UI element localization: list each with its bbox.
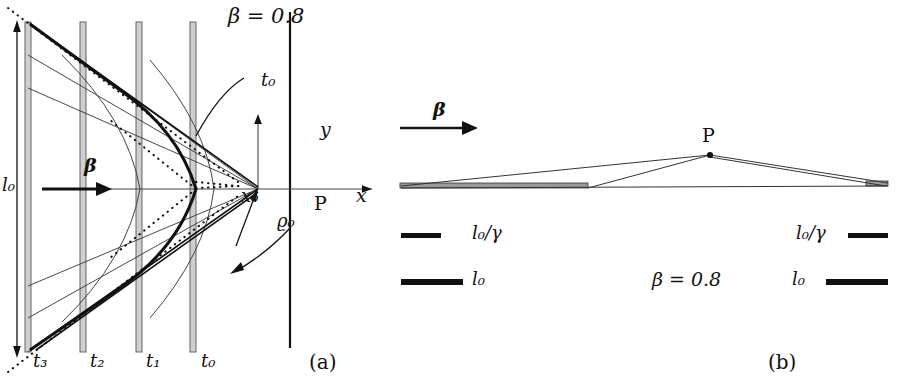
sight-line-b-right-top — [710, 155, 888, 183]
legend-right-bar-proper — [826, 279, 888, 285]
panel-b-graphics — [400, 121, 888, 285]
bold-ray-upper-1 — [30, 24, 258, 187]
panel-a-tick-label-t1: t₁ — [146, 352, 160, 370]
beta-arrowhead-a — [96, 182, 112, 196]
beta-arrowhead-b — [462, 121, 478, 135]
panel-b-point-p-label: P — [702, 126, 715, 145]
sight-line-b-left-top — [401, 155, 710, 186]
rod-position-t3 — [25, 22, 31, 352]
panel-a-tick-label-t3: t₃ — [33, 352, 47, 370]
panel-a-tick-label-t0: t₀ — [201, 352, 215, 370]
sight-line-b-mid — [588, 155, 710, 188]
panel-a-y-axis-label: y — [320, 120, 331, 139]
panel-b-beta-arrow-label: β — [433, 100, 446, 119]
legend-left-bar-contracted — [401, 233, 441, 238]
sight-line-b-right-bot — [710, 157, 886, 186]
apparent-shape-curve — [30, 24, 196, 350]
panel-a-caption: (a) — [309, 352, 337, 372]
dotted-x0-ray — [196, 186, 239, 188]
panel-a-t0-callout-label: t₀ — [261, 71, 275, 89]
panel-a-x-axis-label: x — [356, 186, 367, 205]
sight-line-top-c — [28, 88, 258, 189]
panel-a-tick-label-t2: t₂ — [90, 352, 104, 370]
observer-point-b — [707, 152, 713, 158]
dotted-line-upper — [8, 8, 238, 182]
panel-b-legend-right-label-contracted: l₀/γ — [796, 224, 826, 242]
panel-b-beta-value-label: β = 0.8 — [652, 270, 721, 289]
beta-velocity-arrow-a — [42, 182, 112, 196]
bold-ray-lower-1 — [30, 189, 258, 350]
rod-positions-group — [25, 22, 196, 352]
panel-a-x0-label: x₀ — [241, 187, 258, 205]
panel-a-beta-arrow-label: β — [84, 156, 97, 175]
beta-velocity-arrow-b — [400, 121, 478, 135]
figure-root: β = 0.8 t₀ y x P x₀ ϱ₀ l₀ β t₃ t₂ t₁ t₀ … — [0, 0, 901, 383]
rho0-callout-arrowhead — [230, 262, 244, 274]
sight-lines-group — [28, 22, 258, 352]
panel-a-beta-value-label: β = 0.8 — [228, 6, 304, 27]
t0-callout-leader — [196, 78, 244, 136]
rho0-callout-leader — [238, 228, 290, 270]
rod-position-t1 — [136, 22, 142, 352]
figure-canvas — [0, 0, 901, 383]
bold-ray-lower-2 — [36, 192, 258, 350]
legend-right-bar-contracted — [848, 233, 888, 238]
dotted-x0-upper — [110, 120, 196, 189]
panel-b-legend-left-label-proper: l₀ — [472, 270, 485, 288]
panel-a-point-p-label: P — [314, 194, 327, 213]
panel-b-legend-right-label-proper: l₀ — [792, 270, 805, 288]
bold-rays-group — [30, 24, 258, 350]
panel-a-l0-label: l₀ — [2, 176, 15, 194]
l0-arrowhead-top — [13, 20, 21, 32]
sight-line-bot-b — [28, 189, 258, 318]
panel-b-caption: (b) — [768, 352, 796, 372]
y-axis-arrowhead — [254, 114, 262, 124]
panel-a-rho0-label: ϱ₀ — [277, 212, 295, 230]
panel-a-graphics — [8, 8, 372, 372]
legend-left-bar-proper — [401, 279, 463, 285]
sight-line-top-b — [28, 55, 258, 189]
l0-arrowhead-bottom — [13, 346, 21, 358]
panel-b-legend-left-label-contracted: l₀/γ — [472, 224, 502, 242]
